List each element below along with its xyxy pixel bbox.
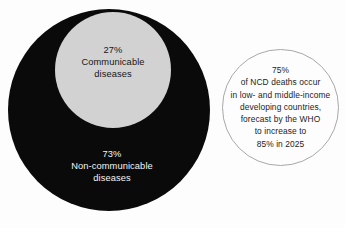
communicable-name-line-2: diseases xyxy=(48,68,178,80)
callout-line-3: in low- and middle-income xyxy=(212,89,345,101)
communicable-diseases-label: 27% Communicable diseases xyxy=(48,44,178,80)
non-communicable-percent: 73% xyxy=(37,148,187,160)
communicable-name-line-1: Communicable xyxy=(48,56,178,68)
non-communicable-name-line-1: Non-communicable xyxy=(37,160,187,172)
callout-line-7: 85% in 2025 xyxy=(212,138,345,150)
ncd-deaths-callout-label: 75% of NCD deaths occur in low- and midd… xyxy=(212,64,345,150)
callout-line-2: of NCD deaths occur xyxy=(212,76,345,88)
callout-line-4: developing countries, xyxy=(212,101,345,113)
non-communicable-diseases-label: 73% Non-communicable diseases xyxy=(37,148,187,184)
callout-line-1: 75% xyxy=(212,64,345,76)
communicable-percent: 27% xyxy=(48,44,178,56)
callout-line-6: to increase to xyxy=(212,125,345,137)
ncd-disease-burden-figure: 27% Communicable diseases 73% Non-commun… xyxy=(0,0,345,228)
callout-line-5: forecast by the WHO xyxy=(212,113,345,125)
non-communicable-name-line-2: diseases xyxy=(37,172,187,184)
